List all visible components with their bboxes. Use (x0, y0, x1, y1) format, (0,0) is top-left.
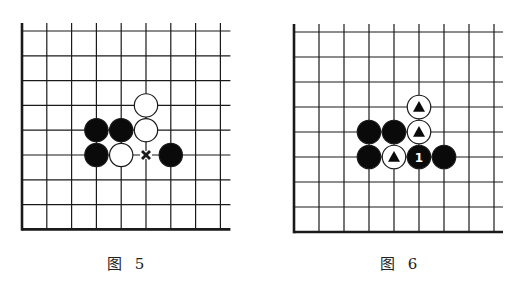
white-stone (407, 120, 431, 144)
black-stone (432, 145, 456, 169)
black-stone (357, 120, 381, 144)
black-stone (382, 120, 406, 144)
white-stone (382, 145, 406, 169)
go-board-fig6: 1 (0, 0, 526, 285)
black-stone (357, 145, 381, 169)
move-number: 1 (415, 151, 423, 165)
white-stone (407, 95, 431, 119)
figure-caption: 图 6 (380, 252, 421, 273)
black-stone: 1 (407, 145, 431, 169)
